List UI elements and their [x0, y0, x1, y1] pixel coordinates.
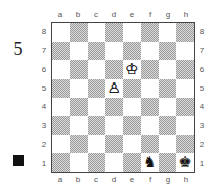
square-e1: [123, 153, 141, 172]
file-label: c: [87, 175, 105, 184]
square-h4: [176, 98, 194, 117]
square-f5: [141, 79, 159, 98]
square-g4: [159, 98, 177, 117]
square-a7: [52, 42, 70, 61]
square-c8: [88, 23, 106, 42]
square-g8: [159, 23, 177, 42]
rank-label: 6: [197, 60, 207, 79]
file-label: a: [51, 175, 69, 184]
square-d3: [105, 116, 123, 135]
square-e2: [123, 135, 141, 154]
file-label: a: [51, 10, 69, 19]
square-d4: [105, 98, 123, 117]
rank-labels-right: 8 7 6 5 4 3 2 1: [197, 22, 207, 173]
rank-label: 6: [39, 60, 49, 79]
square-d6: [105, 60, 123, 79]
square-g5: [159, 79, 177, 98]
square-b2: [70, 135, 88, 154]
square-e5: [123, 79, 141, 98]
square-c6: [88, 60, 106, 79]
file-label: e: [123, 175, 141, 184]
square-g7: [159, 42, 177, 61]
square-h7: [176, 42, 194, 61]
square-d7: [105, 42, 123, 61]
square-d5: ♙: [105, 79, 123, 98]
square-b4: [70, 98, 88, 117]
square-f1: ♞: [141, 153, 159, 172]
square-b6: [70, 60, 88, 79]
black-to-move-indicator-icon: [13, 155, 24, 166]
file-labels-top: a b c d e f g h: [51, 10, 195, 19]
square-h5: [176, 79, 194, 98]
file-label: b: [69, 10, 87, 19]
rank-label: 5: [39, 79, 49, 98]
white-king-icon: ♔: [125, 62, 138, 77]
rank-label: 3: [197, 116, 207, 135]
square-c5: [88, 79, 106, 98]
square-c7: [88, 42, 106, 61]
square-a3: [52, 116, 70, 135]
square-h6: [176, 60, 194, 79]
square-b1: [70, 153, 88, 172]
square-c1: [88, 153, 106, 172]
file-label: h: [177, 10, 195, 19]
black-knight-icon: ♞: [143, 155, 156, 170]
rank-labels-left: 8 7 6 5 4 3 2 1: [39, 22, 49, 173]
rank-label: 3: [39, 116, 49, 135]
square-a5: [52, 79, 70, 98]
square-b7: [70, 42, 88, 61]
square-a1: [52, 153, 70, 172]
diagram-number: 5: [10, 40, 26, 58]
square-b8: [70, 23, 88, 42]
square-e6: ♔: [123, 60, 141, 79]
square-h3: [176, 116, 194, 135]
square-a2: [52, 135, 70, 154]
square-c3: [88, 116, 106, 135]
square-e7: [123, 42, 141, 61]
square-d8: [105, 23, 123, 42]
square-b5: [70, 79, 88, 98]
square-f4: [141, 98, 159, 117]
square-c2: [88, 135, 106, 154]
rank-label: 2: [39, 135, 49, 154]
file-label: g: [159, 175, 177, 184]
square-g3: [159, 116, 177, 135]
square-h8: [176, 23, 194, 42]
square-f7: [141, 42, 159, 61]
rank-label: 8: [39, 22, 49, 41]
rank-label: 5: [197, 79, 207, 98]
square-a4: [52, 98, 70, 117]
square-g6: [159, 60, 177, 79]
square-d1: [105, 153, 123, 172]
file-label: g: [159, 10, 177, 19]
square-c4: [88, 98, 106, 117]
black-king-icon: ♚: [178, 155, 191, 170]
file-label: d: [105, 10, 123, 19]
rank-label: 2: [197, 135, 207, 154]
square-f2: [141, 135, 159, 154]
chess-board: ♔♙♞♚: [51, 22, 195, 173]
rank-label: 4: [197, 98, 207, 117]
rank-label: 7: [197, 41, 207, 60]
rank-label: 7: [39, 41, 49, 60]
file-label: h: [177, 175, 195, 184]
square-h1: ♚: [176, 153, 194, 172]
file-label: e: [123, 10, 141, 19]
square-h2: [176, 135, 194, 154]
square-e3: [123, 116, 141, 135]
file-label: b: [69, 175, 87, 184]
rank-label: 1: [197, 154, 207, 173]
white-pawn-icon: ♙: [107, 81, 120, 96]
file-label: d: [105, 175, 123, 184]
rank-label: 4: [39, 98, 49, 117]
square-f8: [141, 23, 159, 42]
square-g1: [159, 153, 177, 172]
square-g2: [159, 135, 177, 154]
rank-label: 1: [39, 154, 49, 173]
file-labels-bottom: a b c d e f g h: [51, 175, 195, 184]
square-f6: [141, 60, 159, 79]
square-a6: [52, 60, 70, 79]
square-e4: [123, 98, 141, 117]
square-e8: [123, 23, 141, 42]
rank-label: 8: [197, 22, 207, 41]
